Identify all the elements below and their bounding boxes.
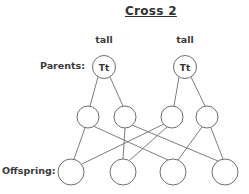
offspring-circle-2 [110,159,136,185]
parent-1-genotype: Tt [99,63,110,73]
offspring-circle-1 [58,159,84,185]
gamete-circle-2 [114,106,136,128]
gamete-circle-1 [77,106,99,128]
offspring-circle-3 [160,159,186,185]
gamete-circle-4 [196,106,218,128]
gamete-circle-3 [161,106,183,128]
parent-2-genotype: Tt [180,63,191,73]
cross-diagram: Tt Tt [0,0,249,194]
offspring-circle-4 [212,159,238,185]
